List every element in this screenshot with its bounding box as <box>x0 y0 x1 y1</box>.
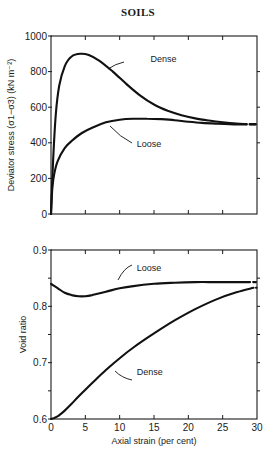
y-tick-label: 600 <box>30 102 47 113</box>
series-loose-line <box>51 282 250 296</box>
annotation-leader <box>118 265 132 280</box>
y-tick-label: 1000 <box>25 31 48 42</box>
void-ratio-chart: 0510152025300.60.70.80.9Void ratioAxial … <box>18 245 263 447</box>
y-axis-label: Deviator stress (σ1−σ3) (kN m⁻²) <box>6 59 16 191</box>
y-tick-label: 200 <box>30 173 47 184</box>
y-tick-label: 400 <box>30 137 47 148</box>
annotation-leader <box>110 126 132 143</box>
series-dense-line <box>51 288 254 419</box>
y-tick-label: 0.7 <box>33 357 47 368</box>
x-tick-label: 20 <box>183 422 195 433</box>
annotation-leader <box>108 62 124 69</box>
x-tick-label: 15 <box>148 422 160 433</box>
y-tick-label: 800 <box>30 66 47 77</box>
annotation-loose: Loose <box>137 263 162 273</box>
y-tick-label: 0.9 <box>33 245 47 256</box>
y-tick-label: 0.6 <box>33 414 47 425</box>
deviator-stress-chart: 02004006008001000Deviator stress (σ1−σ3)… <box>6 31 260 220</box>
x-tick-label: 10 <box>114 422 126 433</box>
annotation-dense: Dense <box>151 54 177 64</box>
x-tick-label: 30 <box>251 422 263 433</box>
figure: 02004006008001000Deviator stress (σ1−σ3)… <box>0 0 276 464</box>
x-tick-label: 0 <box>48 422 54 433</box>
y-axis-label: Void ratio <box>18 316 28 354</box>
y-tick-label: 0 <box>41 209 47 220</box>
series-loose-line <box>51 119 247 214</box>
annotation-dense: Dense <box>137 367 163 377</box>
annotation-leader <box>115 371 132 380</box>
annotation-loose: Loose <box>137 139 162 149</box>
y-tick-label: 0.8 <box>33 301 47 312</box>
x-tick-label: 25 <box>217 422 229 433</box>
x-axis-label: Axial strain (per cent) <box>111 436 196 446</box>
x-tick-label: 5 <box>83 422 89 433</box>
